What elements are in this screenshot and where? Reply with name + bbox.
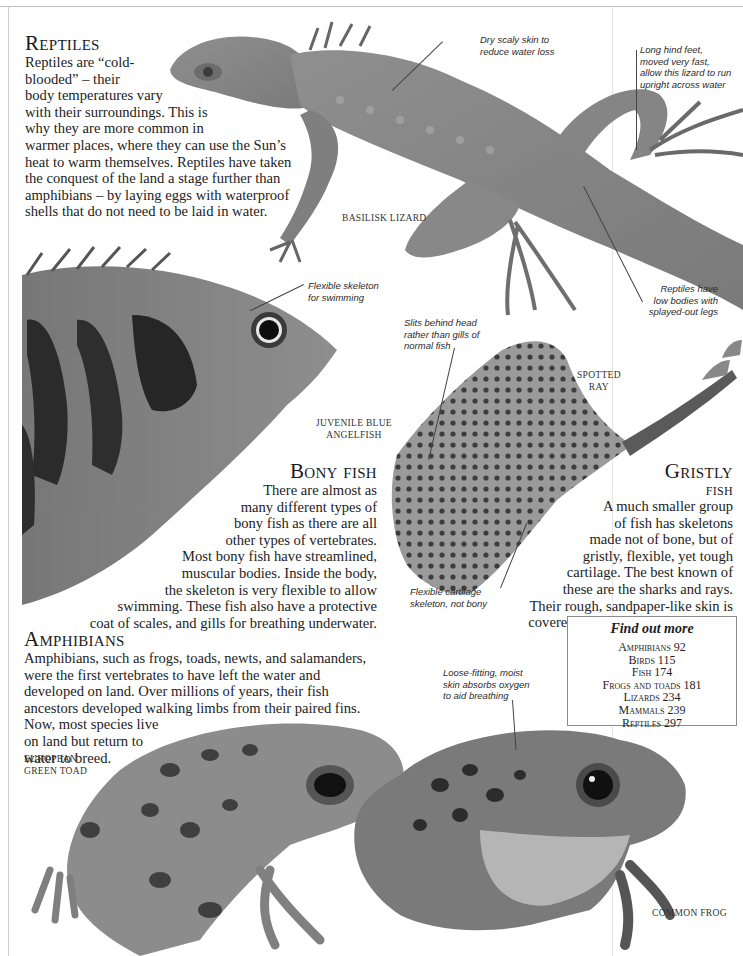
caption-spotted-ray: Spotted ray (577, 369, 621, 393)
annotation-line: skin absorbs oxygen (443, 679, 530, 691)
reptiles-section: Reptiles Reptiles are “cold- blooded” – … (25, 32, 375, 220)
amphibians-heading: Amphibians (24, 628, 384, 650)
annotation-line: Slits behind head (404, 317, 480, 329)
item-page: 297 (664, 716, 682, 730)
common-frog-image (330, 715, 715, 956)
annotation-low-bodies: Reptiles have low bodies with splayed-ou… (620, 283, 718, 318)
reptiles-line: shells that do not need to be laid in wa… (25, 203, 375, 220)
bony-fish-line: There are almost as (20, 482, 377, 499)
annotation-flexible-skeleton: Flexible skeleton for swimming (308, 280, 379, 303)
bony-fish-line: other types of vertebrates. (20, 532, 377, 549)
annotation-cartilage: Flexible cartilage skeleton, not bony (410, 586, 487, 609)
amphibians-line: ancestors developed walking limbs from t… (24, 700, 384, 717)
caption-line: ray (577, 381, 621, 393)
annotation-line: Reptiles have (620, 283, 718, 295)
annotation-dry-skin: Dry scaly skin to reduce water loss (480, 34, 554, 57)
amphibians-line: on land but return to (24, 733, 384, 750)
gristly-fish-line: cartilage. The best known of (480, 564, 733, 581)
annotation-line: normal fish (404, 340, 480, 352)
gristly-fish-line: these are the sharks and rays. (480, 581, 733, 598)
bony-fish-line: Most bony fish have streamlined, (20, 548, 377, 565)
amphibians-line: water to breed. (24, 750, 384, 767)
caption-common-frog: Common frog (652, 907, 727, 919)
bony-fish-heading: Bony fish (20, 460, 377, 482)
amphibians-line: Now, most species live (24, 716, 384, 733)
heading-line: fish (480, 482, 733, 498)
caption-angelfish: Juvenile blue angelfish (316, 417, 392, 441)
reptiles-line: amphibians – by laying eggs with waterpr… (25, 187, 375, 204)
amphibians-section: Amphibians Amphibians, such as frogs, to… (24, 628, 384, 766)
annotation-line: splayed-out legs (620, 306, 718, 318)
annotation-line: Dry scaly skin to (480, 34, 554, 46)
bony-fish-line: swimming. These fish also have a protect… (20, 598, 377, 615)
annotation-line: skeleton, not bony (410, 598, 487, 610)
annotation-line: low bodies with (620, 295, 718, 307)
item-page: 181 (683, 678, 701, 692)
page-top-border (0, 6, 743, 7)
reptiles-line: with their surroundings. This is (25, 104, 375, 121)
reptiles-line: blooded” – their (25, 71, 375, 88)
caption-line: Spotted (577, 369, 621, 381)
caption-basilisk-lizard: Basilisk lizard (342, 212, 426, 224)
caption-line: Juvenile blue (316, 417, 392, 429)
annotation-line: rather than gills of (404, 329, 480, 341)
annotation-line: for swimming (308, 292, 379, 304)
find-out-more-item-reptiles[interactable]: Reptiles 297 (568, 717, 736, 730)
amphibians-line: developed on land. Over millions of year… (24, 683, 384, 700)
bony-fish-line: muscular bodies. Inside the body, (20, 565, 377, 582)
reptiles-line: Reptiles are “cold- (25, 54, 375, 71)
heading-line: Gristly (480, 460, 733, 482)
gristly-fish-body: A much smaller group of fish has skeleto… (480, 498, 733, 631)
reptiles-line: why they are more common in (25, 120, 375, 137)
bony-fish-line: bony fish as there are all (20, 515, 377, 532)
reptiles-line: body temperatures vary (25, 87, 375, 104)
find-out-more-box: Find out more Amphibians 92 Birds 115 Fi… (567, 616, 737, 726)
gristly-fish-line: of fish has skeletons (480, 515, 733, 532)
item-name: Reptiles (622, 716, 661, 730)
bony-fish-section: Bony fish There are almost as many diffe… (20, 460, 377, 631)
caption-line: green toad (24, 765, 87, 777)
gristly-fish-line: A much smaller group (480, 498, 733, 515)
caption-line: angelfish (316, 429, 392, 441)
annotation-line: Loose-fitting, moist (443, 667, 530, 679)
gristly-fish-line: gristly, flexible, yet tough (480, 548, 733, 565)
annotation-line: allow this lizard to run (640, 67, 731, 79)
annotation-hind-feet: Long hind feet, moved very fast, allow t… (640, 44, 731, 90)
annotation-line: moved very fast, (640, 56, 731, 68)
reptiles-line: warmer places, where they can use the Su… (25, 137, 375, 154)
leader-line-hind-feet (636, 50, 637, 150)
annotation-moist-skin: Loose-fitting, moist skin absorbs oxygen… (443, 667, 530, 702)
gristly-fish-heading: Gristly fish (480, 460, 733, 498)
annotation-line: to aid breathing (443, 690, 530, 702)
annotation-line: Long hind feet, (640, 44, 731, 56)
annotation-line: Flexible cartilage (410, 586, 487, 598)
bony-fish-body: There are almost as many different types… (20, 482, 377, 631)
annotation-line: reduce water loss (480, 46, 554, 58)
item-page: 92 (674, 640, 686, 654)
amphibians-line: were the first vertebrates to have left … (24, 667, 384, 684)
reptiles-line: the conquest of the land a stage further… (25, 170, 375, 187)
reptiles-body: Reptiles are “cold- blooded” – their bod… (25, 54, 375, 220)
annotation-line: upright across water (640, 79, 731, 91)
gristly-fish-line: Their rough, sandpaper-like skin is (480, 598, 733, 615)
amphibians-body: Amphibians, such as frogs, toads, newts,… (24, 650, 384, 766)
find-out-more-title: Find out more (568, 621, 736, 637)
reptiles-line: heat to warm themselves. Reptiles have t… (25, 154, 375, 171)
annotation-line: Flexible skeleton (308, 280, 379, 292)
annotation-slits: Slits behind head rather than gills of n… (404, 317, 480, 352)
reptiles-heading: Reptiles (25, 32, 375, 54)
bony-fish-line: many different types of (20, 499, 377, 516)
bony-fish-line: the skeleton is very flexible to allow (20, 582, 377, 599)
amphibians-line: Amphibians, such as frogs, toads, newts,… (24, 650, 384, 667)
gristly-fish-section: Gristly fish A much smaller group of fis… (480, 460, 733, 631)
gristly-fish-line: made not of bone, but of (480, 531, 733, 548)
page-left-border (8, 6, 9, 956)
